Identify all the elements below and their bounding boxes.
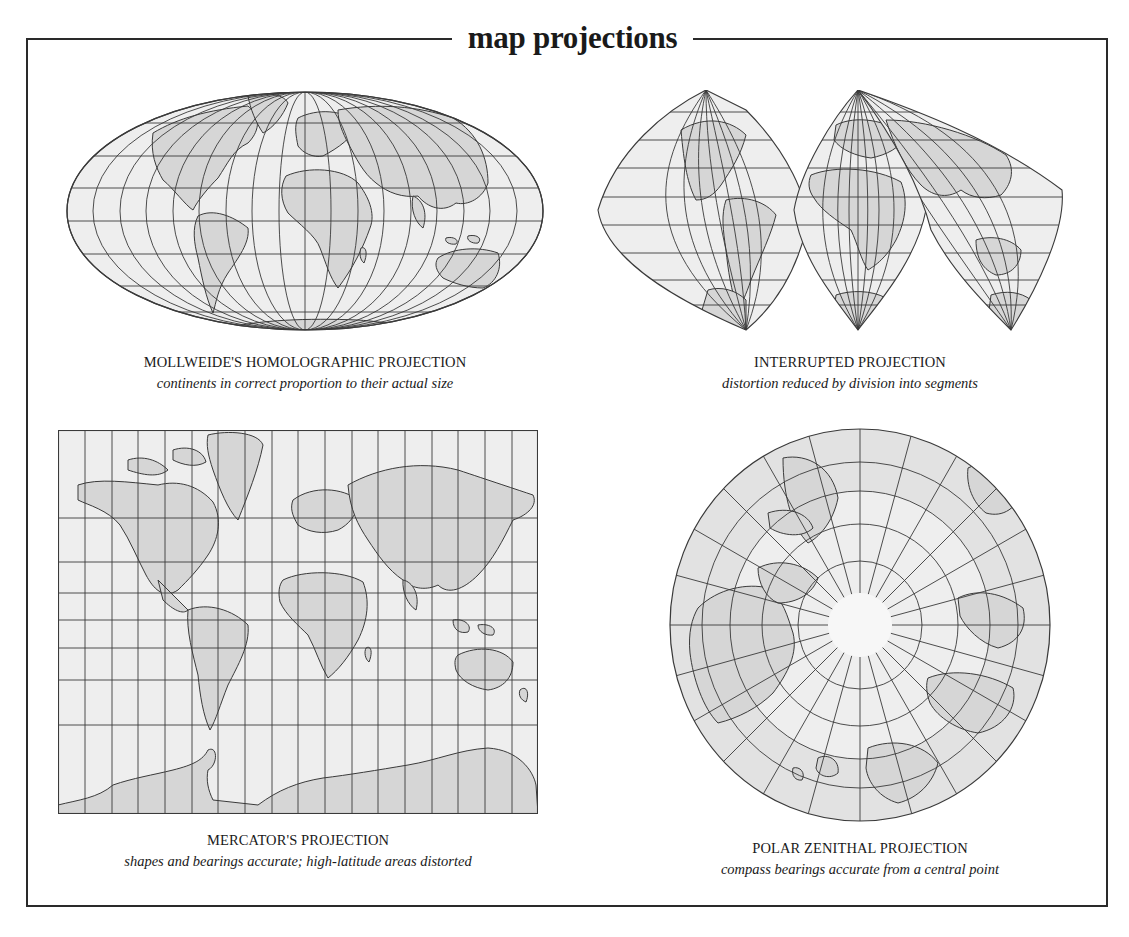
mercator-caption: MERCATOR'S PROJECTION shapes and bearing… <box>58 830 538 872</box>
interrupted-caption: INTERRUPTED PROJECTION distortion reduce… <box>660 352 1040 394</box>
mercator-title: MERCATOR'S PROJECTION <box>58 830 538 850</box>
interrupted-map <box>596 90 1074 334</box>
frame-top-rule-left <box>26 38 452 40</box>
polar-description: compass bearings accurate from a central… <box>660 858 1060 880</box>
mercator-map <box>58 430 538 814</box>
interrupted-title: INTERRUPTED PROJECTION <box>660 352 1040 372</box>
polar-map <box>668 418 1052 822</box>
mercator-description: shapes and bearings accurate; high-latit… <box>58 850 538 872</box>
polar-caption: POLAR ZENITHAL PROJECTION compass bearin… <box>660 838 1060 880</box>
mollweide-map <box>58 88 552 334</box>
figure-title: map projections <box>452 18 693 58</box>
polar-title: POLAR ZENITHAL PROJECTION <box>660 838 1060 858</box>
mollweide-caption: MOLLWEIDE'S HOMOLOGRAPHIC PROJECTION con… <box>58 352 552 394</box>
interrupted-description: distortion reduced by division into segm… <box>660 372 1040 394</box>
frame-top-rule-right <box>693 38 1108 40</box>
mollweide-description: continents in correct proportion to thei… <box>58 372 552 394</box>
mollweide-title: MOLLWEIDE'S HOMOLOGRAPHIC PROJECTION <box>58 352 552 372</box>
